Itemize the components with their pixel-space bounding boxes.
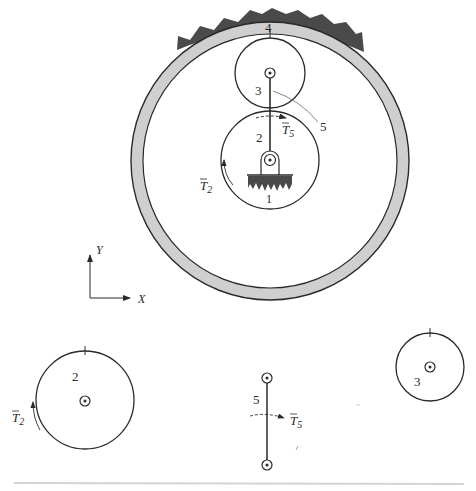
x-axis-label: X xyxy=(137,292,146,306)
fbd-sun-gear-2 xyxy=(33,346,134,449)
fbd-arm-torque-label: T5 xyxy=(290,413,302,430)
y-axis-label: Y xyxy=(96,243,104,257)
fbd-planet-label: 3 xyxy=(414,374,421,389)
fbd-sun-label: 2 xyxy=(72,369,79,384)
separator-line xyxy=(14,483,464,484)
speck xyxy=(296,446,298,450)
fbd-arm-label: 5 xyxy=(253,392,260,407)
fbd-planet-gear-3 xyxy=(396,328,464,401)
ring-gear-label: 4 xyxy=(265,20,272,35)
diagram-canvas: 4 3 2 1 T5 5 T2 Y X xyxy=(0,0,476,491)
fbd-sun-torque-label: T2 xyxy=(12,410,24,427)
fbd-arm-5 xyxy=(250,373,284,470)
torque-sun-label: T2 xyxy=(200,178,212,195)
coordinate-axes xyxy=(90,255,130,298)
arm-label: 5 xyxy=(320,119,327,134)
planet-gear-label: 3 xyxy=(255,83,262,98)
ground-label: 1 xyxy=(266,192,272,206)
sun-gear-label: 2 xyxy=(256,130,263,145)
